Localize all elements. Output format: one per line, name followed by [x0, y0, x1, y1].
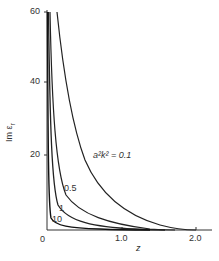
x-tick-label-1: 1.0: [115, 234, 128, 243]
curve-label-10: 10: [52, 214, 62, 224]
curve-label-0.5: 0.5: [64, 183, 77, 193]
x-axis-label: z: [136, 243, 141, 253]
y-tick-label-20: 20: [30, 150, 40, 159]
y-tick-label-60: 60: [30, 7, 40, 16]
x-tick-label-2: 2.0: [189, 234, 202, 243]
curve-10: [48, 12, 151, 230]
y-axis-label: Im εr: [4, 123, 16, 142]
curve-label-0.1: a²k² = 0.1: [93, 150, 131, 160]
y-axis-label-sub: r: [9, 123, 16, 125]
origin-label: 0: [40, 235, 45, 244]
chart-canvas: [0, 0, 219, 261]
curve-label-1: 1: [59, 203, 64, 213]
y-tick-label-40: 40: [30, 77, 40, 86]
curve-1: [49, 12, 166, 230]
curve-0.1: [57, 12, 196, 230]
y-axis-label-text: Im ε: [4, 125, 14, 142]
curve-0.5: [50, 12, 175, 230]
